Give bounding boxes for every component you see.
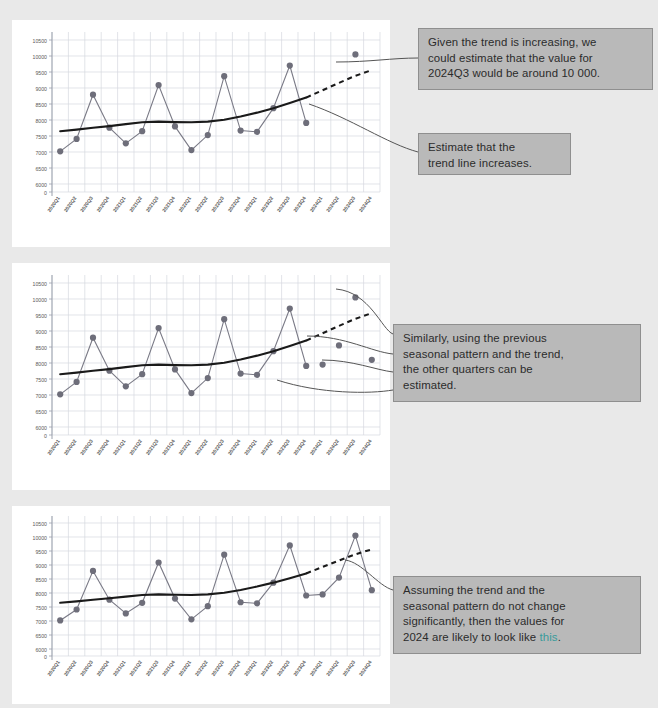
svg-text:8500: 8500: [35, 345, 47, 351]
svg-text:2021Q2: 2021Q2: [128, 438, 143, 456]
svg-text:2020Q1: 2020Q1: [46, 438, 61, 456]
chart-2-svg: 0600065007000750080008500900095001000010…: [12, 263, 390, 490]
annotation-2-line-2: trend line increases.: [428, 156, 561, 172]
svg-text:2023Q3: 2023Q3: [275, 438, 290, 456]
svg-text:2022Q1: 2022Q1: [177, 438, 192, 456]
svg-text:2024Q3: 2024Q3: [341, 659, 356, 677]
svg-text:6000: 6000: [35, 425, 47, 431]
svg-text:2023Q2: 2023Q2: [259, 195, 274, 213]
svg-text:10000: 10000: [33, 535, 48, 541]
svg-text:2021Q1: 2021Q1: [111, 195, 126, 213]
annotation-1-line-2: could estimate that the value for: [428, 51, 643, 67]
svg-text:2023Q2: 2023Q2: [259, 659, 274, 677]
slide-canvas: 0600065007000750080008500900095001000010…: [0, 0, 658, 708]
svg-text:2023Q1: 2023Q1: [243, 195, 258, 213]
svg-text:7000: 7000: [35, 150, 47, 156]
svg-text:2024Q1: 2024Q1: [308, 438, 323, 456]
annotation-3-line-3: the other quarters can be: [403, 362, 631, 378]
svg-text:2020Q4: 2020Q4: [95, 659, 110, 677]
chart-card-3: 0600065007000750080008500900095001000010…: [12, 506, 390, 704]
svg-text:8000: 8000: [35, 591, 47, 597]
svg-text:2022Q1: 2022Q1: [177, 659, 192, 677]
svg-text:9000: 9000: [35, 563, 47, 569]
svg-text:2022Q4: 2022Q4: [226, 438, 241, 456]
svg-text:2023Q2: 2023Q2: [259, 438, 274, 456]
svg-text:2020Q1: 2020Q1: [46, 195, 61, 213]
annotation-3-line-2: seasonal pattern and the trend,: [403, 347, 631, 363]
svg-text:2022Q3: 2022Q3: [210, 195, 225, 213]
annotation-4-line-4: 2024 are likely to look like this.: [403, 630, 631, 646]
annotation-4-line-2: seasonal pattern do not change: [403, 599, 631, 615]
svg-text:7500: 7500: [35, 377, 47, 383]
svg-text:9500: 9500: [35, 313, 47, 319]
annotation-4-line-1: Assuming the trend and the: [403, 583, 631, 599]
svg-text:2022Q2: 2022Q2: [193, 195, 208, 213]
svg-text:2020Q2: 2020Q2: [62, 659, 77, 677]
svg-text:2024Q3: 2024Q3: [341, 195, 356, 213]
svg-text:2024Q1: 2024Q1: [308, 659, 323, 677]
annotation-2-line-1: Estimate that the: [428, 140, 561, 156]
svg-text:2023Q1: 2023Q1: [243, 438, 258, 456]
svg-text:10500: 10500: [33, 281, 48, 287]
svg-text:0: 0: [44, 654, 47, 660]
svg-text:10000: 10000: [33, 297, 48, 303]
svg-text:10000: 10000: [33, 54, 48, 60]
svg-text:10500: 10500: [33, 38, 48, 44]
svg-text:2021Q2: 2021Q2: [128, 195, 143, 213]
svg-text:9500: 9500: [35, 549, 47, 555]
svg-text:6500: 6500: [35, 166, 47, 172]
svg-text:2020Q3: 2020Q3: [79, 659, 94, 677]
svg-text:2024Q2: 2024Q2: [325, 195, 340, 213]
svg-text:2021Q3: 2021Q3: [144, 438, 159, 456]
svg-text:2023Q1: 2023Q1: [243, 659, 258, 677]
svg-text:9000: 9000: [35, 86, 47, 92]
annotation-callout-4: Assuming the trend and the seasonal patt…: [393, 576, 641, 654]
svg-text:7000: 7000: [35, 619, 47, 625]
annotation-callout-1: Given the trend is increasing, we could …: [418, 28, 653, 90]
svg-text:8000: 8000: [35, 118, 47, 124]
svg-text:8500: 8500: [35, 577, 47, 583]
annotation-callout-2: Estimate that the trend line increases.: [418, 133, 571, 175]
svg-text:2021Q4: 2021Q4: [161, 195, 176, 213]
svg-text:2022Q2: 2022Q2: [193, 438, 208, 456]
svg-text:2023Q3: 2023Q3: [275, 659, 290, 677]
annotation-3-line-4: estimated.: [403, 378, 631, 394]
svg-text:2024Q4: 2024Q4: [357, 195, 372, 213]
svg-text:2022Q2: 2022Q2: [193, 659, 208, 677]
svg-text:2023Q4: 2023Q4: [292, 438, 307, 456]
svg-text:2022Q4: 2022Q4: [226, 659, 241, 677]
svg-text:2020Q3: 2020Q3: [79, 438, 94, 456]
svg-text:2024Q4: 2024Q4: [357, 659, 372, 677]
annotation-4-trailing: .: [558, 631, 561, 643]
svg-text:8000: 8000: [35, 361, 47, 367]
svg-text:6500: 6500: [35, 409, 47, 415]
svg-text:2022Q4: 2022Q4: [226, 195, 241, 213]
svg-text:2023Q4: 2023Q4: [292, 659, 307, 677]
chart-card-2: 0600065007000750080008500900095001000010…: [12, 263, 390, 490]
annotation-callout-3: Similarly, using the previous seasonal p…: [393, 324, 641, 402]
svg-text:2021Q4: 2021Q4: [161, 438, 176, 456]
svg-text:2022Q1: 2022Q1: [177, 195, 192, 213]
svg-text:2020Q3: 2020Q3: [79, 195, 94, 213]
svg-text:2024Q3: 2024Q3: [341, 438, 356, 456]
svg-text:6000: 6000: [35, 647, 47, 653]
svg-text:9000: 9000: [35, 329, 47, 335]
svg-text:6500: 6500: [35, 633, 47, 639]
annotation-1-line-3: 2024Q3 would be around 10 000.: [428, 66, 643, 82]
svg-text:10500: 10500: [33, 521, 48, 527]
svg-text:0: 0: [44, 433, 47, 439]
svg-text:9500: 9500: [35, 70, 47, 76]
svg-text:7500: 7500: [35, 134, 47, 140]
svg-text:2023Q3: 2023Q3: [275, 195, 290, 213]
svg-text:2024Q1: 2024Q1: [308, 195, 323, 213]
svg-text:2022Q3: 2022Q3: [210, 659, 225, 677]
svg-text:2021Q4: 2021Q4: [161, 659, 176, 677]
svg-text:2024Q2: 2024Q2: [325, 659, 340, 677]
annotation-4-line-4-text: 2024 are likely to look like: [403, 631, 540, 643]
svg-text:2020Q2: 2020Q2: [62, 195, 77, 213]
annotation-1-line-1: Given the trend is increasing, we: [428, 35, 643, 51]
svg-text:2022Q3: 2022Q3: [210, 438, 225, 456]
chart-1-svg: 0600065007000750080008500900095001000010…: [12, 20, 390, 247]
svg-text:2023Q4: 2023Q4: [292, 195, 307, 213]
svg-text:2024Q2: 2024Q2: [325, 438, 340, 456]
